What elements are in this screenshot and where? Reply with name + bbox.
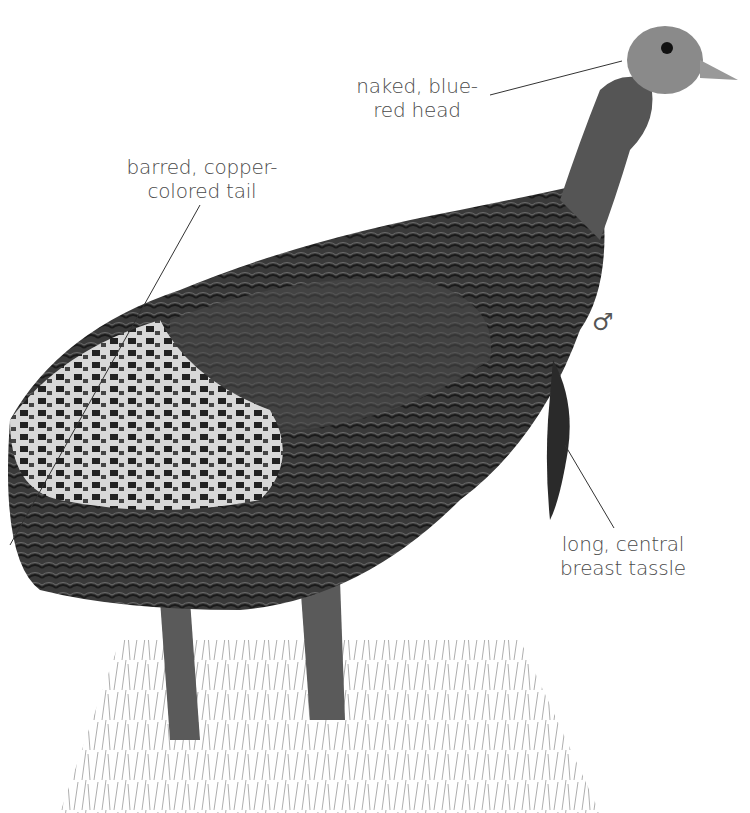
label-tail-line1: barred, copper- xyxy=(122,155,282,179)
turkey-head xyxy=(627,26,703,94)
tassle-pointer xyxy=(565,445,614,528)
label-head-line2: red head xyxy=(352,98,482,122)
label-tassle: long, central breast tassle xyxy=(548,532,698,580)
label-head: naked, blue- red head xyxy=(352,74,482,122)
label-head-line1: naked, blue- xyxy=(352,74,482,98)
male-symbol-icon: ♂ xyxy=(592,308,614,336)
label-tassle-line1: long, central xyxy=(548,532,698,556)
label-tail: barred, copper- colored tail xyxy=(122,155,282,203)
label-tail-line2: colored tail xyxy=(122,179,282,203)
eye xyxy=(661,42,673,54)
label-tassle-line2: breast tassle xyxy=(548,556,698,580)
beak xyxy=(700,60,738,80)
